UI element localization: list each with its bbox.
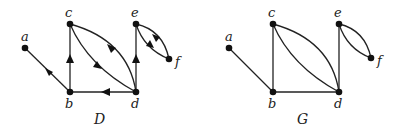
node-c <box>67 21 74 28</box>
node-e <box>133 21 140 28</box>
directed-graph-d: a b c d e f D <box>21 5 182 127</box>
arrow-f-e-icon <box>152 34 160 42</box>
node-a <box>22 45 29 52</box>
node-label-e: e <box>131 5 139 20</box>
edge-c-d-inner <box>70 24 136 92</box>
arrow-c-d-icon <box>93 61 102 69</box>
arrow-d-b-icon <box>101 88 110 96</box>
node-b <box>270 89 277 96</box>
arrow-d-e-icon <box>132 54 140 63</box>
node-label-a: a <box>225 29 233 44</box>
edge-c-d-inner <box>273 24 339 92</box>
graph-caption-g: G <box>297 111 308 127</box>
node-e <box>336 21 343 28</box>
node-d <box>336 89 343 96</box>
node-a <box>226 45 233 52</box>
edge-d-c-outer <box>70 24 136 92</box>
node-label-b: b <box>268 96 276 111</box>
node-f <box>368 55 375 62</box>
undirected-graph-g: a b c d e f G <box>225 5 384 127</box>
node-f <box>166 56 173 63</box>
arrow-b-c-icon <box>66 54 74 63</box>
node-label-e: e <box>334 5 342 20</box>
node-c <box>270 21 277 28</box>
node-label-f: f <box>174 54 182 69</box>
graph-caption-d: D <box>93 111 105 127</box>
node-label-d: d <box>131 96 139 111</box>
node-label-c: c <box>65 5 73 20</box>
edge-e-f-inner <box>136 24 169 59</box>
node-label-b: b <box>65 96 73 111</box>
edge-c-d-outer <box>273 24 339 92</box>
node-label-a: a <box>21 29 29 44</box>
graph-figure: a b c d e f D a b c d e f G <box>0 0 398 132</box>
edge-e-f-outer <box>339 24 371 58</box>
node-label-d: d <box>334 96 342 111</box>
node-b <box>67 89 74 96</box>
edge-a-b <box>229 48 273 92</box>
edge-e-f-inner <box>339 24 371 58</box>
node-d <box>133 89 140 96</box>
node-label-c: c <box>268 5 276 20</box>
edge-f-e-outer <box>136 24 169 59</box>
node-label-f: f <box>376 53 384 68</box>
